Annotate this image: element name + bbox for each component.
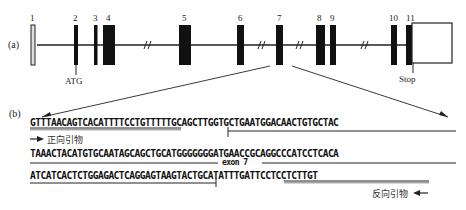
exon-number-1: 1: [30, 13, 35, 23]
exon-number-2: 2: [73, 13, 78, 23]
exon-3: [94, 25, 98, 65]
sequence-line-1: GTTTAACAGTCACATTTTCCTGTTTTTGCAGCTTGGTGCT…: [30, 117, 338, 128]
exon-number-8: 8: [317, 13, 322, 23]
exon-9: [330, 25, 336, 65]
forward-primer-label: 正向引物: [47, 133, 83, 146]
exon-number-3: 3: [93, 13, 98, 23]
atg-label: ATG: [65, 76, 83, 86]
exon-number-11: 11: [406, 13, 415, 23]
sequence-line-3: ATCATCACTCTGGAGACTCAGGAGTAAGTACTGCATATTT…: [30, 170, 317, 181]
exon-6: [237, 25, 244, 65]
exon-8: [316, 25, 325, 65]
exon-4: [103, 25, 115, 65]
exon-7-label: exon 7: [222, 158, 248, 167]
utr-box: [412, 23, 452, 63]
reverse-primer-label: 反向引物: [372, 187, 408, 200]
exon-number-6: 6: [238, 13, 243, 23]
sequence-line-2: TAAACTACATGTGCAATAGCAGCTGCATGGGGGGGATGAA…: [30, 148, 338, 159]
exon-11: [406, 25, 412, 65]
exon-5: [179, 25, 191, 65]
exon-10: [391, 25, 397, 65]
exon-7: [276, 25, 283, 65]
panel-b-label: (b): [9, 108, 21, 119]
exon-number-5: 5: [182, 13, 187, 23]
stop-label: Stop: [399, 74, 416, 84]
exon-number-9: 9: [330, 13, 335, 23]
exon-1: [31, 25, 35, 65]
exon-number-7: 7: [277, 13, 282, 23]
exon-2: [74, 25, 78, 65]
exon-number-4: 4: [106, 13, 111, 23]
exon-number-10: 10: [389, 13, 398, 23]
